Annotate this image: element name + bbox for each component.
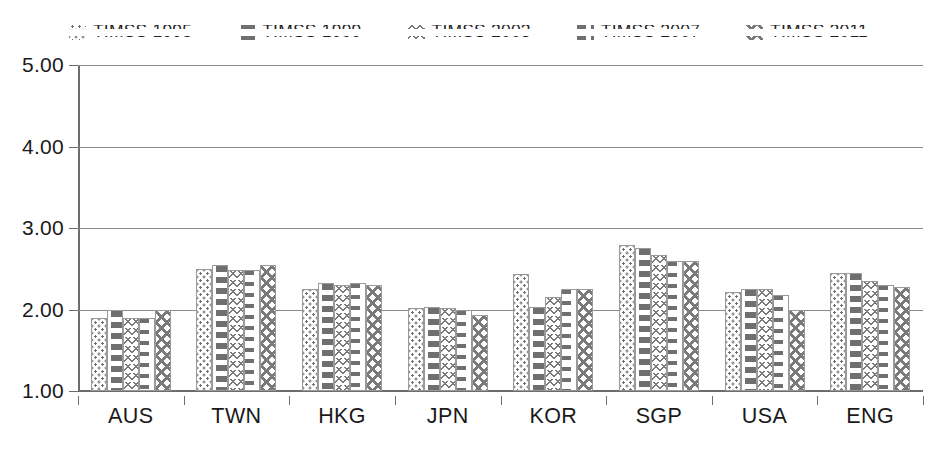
bar[interactable]: [862, 281, 878, 391]
horizontal-dash-swatch-icon: [577, 23, 594, 40]
x-tick-mark: [289, 396, 290, 405]
bar-group-sgp: [606, 65, 712, 391]
bar-group-aus: [78, 65, 184, 391]
bar[interactable]: [894, 287, 910, 391]
bar[interactable]: [318, 283, 334, 391]
x-tick-mark: [395, 396, 396, 405]
bar-group-eng: [817, 65, 923, 391]
x-tick-label-twn: TWN: [211, 404, 261, 429]
x-tick-label-kor: KOR: [529, 404, 577, 429]
bar[interactable]: [830, 273, 846, 391]
bar[interactable]: [773, 295, 789, 391]
x-tick-label-usa: USA: [742, 404, 787, 429]
x-tick-mark: [923, 396, 924, 405]
bar[interactable]: [456, 310, 472, 392]
bars-layer: [78, 65, 923, 391]
bar[interactable]: [635, 248, 651, 391]
x-tick-mark: [606, 396, 607, 405]
bar[interactable]: [846, 273, 862, 391]
bar[interactable]: [545, 297, 561, 391]
bar-group-hkg: [289, 65, 395, 391]
bar-chart: TIMSS 1995TIMSS 1999TIMSS 2003TIMSS 2007…: [0, 0, 937, 454]
bar-group-twn: [184, 65, 290, 391]
bar[interactable]: [244, 270, 260, 391]
bar[interactable]: [424, 307, 440, 391]
bar[interactable]: [139, 318, 155, 391]
y-axis: 1.002.003.004.005.00: [0, 65, 78, 391]
bar[interactable]: [878, 285, 894, 391]
bar-group-usa: [712, 65, 818, 391]
bar[interactable]: [91, 318, 107, 391]
bar[interactable]: [651, 255, 667, 391]
bar[interactable]: [228, 270, 244, 391]
plot-area: [78, 65, 923, 391]
bar[interactable]: [196, 269, 212, 391]
x-tick-label-eng: ENG: [846, 404, 894, 429]
x-tick-label-sgp: SGP: [636, 404, 683, 429]
bar-group-kor: [501, 65, 607, 391]
bar[interactable]: [155, 310, 171, 392]
y-tick-label: 1.00: [2, 379, 64, 403]
bar[interactable]: [472, 315, 488, 391]
bar[interactable]: [683, 261, 699, 391]
x-tick-mark: [817, 396, 818, 405]
bar[interactable]: [302, 289, 318, 391]
bar[interactable]: [741, 289, 757, 391]
x-tick-label-hkg: HKG: [318, 404, 366, 429]
x-tick-mark: [184, 396, 185, 405]
chart-legend: TIMSS 1995TIMSS 1999TIMSS 2003TIMSS 2007…: [0, 14, 937, 48]
bar[interactable]: [366, 285, 382, 391]
x-tick-mark: [712, 396, 713, 405]
bar[interactable]: [619, 245, 635, 391]
bar[interactable]: [789, 310, 805, 392]
y-tick-mark: [69, 310, 78, 311]
x-tick-mark: [501, 396, 502, 405]
bar[interactable]: [725, 292, 741, 391]
y-tick-mark: [69, 65, 78, 66]
y-tick-mark: [69, 147, 78, 148]
bar-group-jpn: [395, 65, 501, 391]
bar[interactable]: [123, 318, 139, 391]
bar[interactable]: [334, 285, 350, 391]
x-tick-label-aus: AUS: [108, 404, 153, 429]
bar[interactable]: [577, 289, 593, 391]
bar[interactable]: [513, 274, 529, 391]
bar[interactable]: [561, 289, 577, 391]
bar[interactable]: [529, 307, 545, 391]
y-tick-label: 3.00: [2, 216, 64, 240]
y-tick-mark: [69, 228, 78, 229]
x-axis-labels: AUSTWNHKGJPNKORSGPUSAENG: [78, 396, 923, 436]
bar[interactable]: [212, 265, 228, 391]
bar[interactable]: [440, 308, 456, 391]
bar[interactable]: [260, 265, 276, 391]
bar[interactable]: [757, 289, 773, 391]
y-tick-label: 4.00: [2, 135, 64, 159]
bar[interactable]: [107, 310, 123, 392]
y-tick-mark: [69, 391, 78, 392]
bar[interactable]: [667, 261, 683, 391]
y-tick-label: 2.00: [2, 298, 64, 322]
legend-item[interactable]: TIMSS 2007: [577, 21, 700, 42]
bar[interactable]: [408, 308, 424, 391]
x-tick-label-jpn: JPN: [427, 404, 469, 429]
y-tick-label: 5.00: [2, 53, 64, 77]
x-tick-mark: [78, 396, 79, 405]
bar[interactable]: [350, 283, 366, 391]
